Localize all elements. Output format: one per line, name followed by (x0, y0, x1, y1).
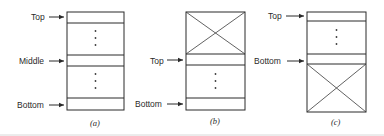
crossed-out-region-icon (307, 64, 366, 112)
crossed-out-region-icon (186, 12, 245, 54)
stack-outline (67, 12, 124, 110)
panel-a: Top Middle Bottom (a) (17, 12, 124, 128)
panel-b: Top Bottom (b) (135, 12, 245, 126)
bottom-pointer-label: Bottom (135, 99, 162, 109)
bottom-pointer-label: Bottom (254, 56, 281, 66)
ellipsis-dots-icon (95, 30, 97, 46)
top-pointer-label: Top (150, 56, 164, 66)
stack-diagram-figure: Top Middle Bottom (a) Top Bottom (b) (0, 0, 384, 136)
ellipsis-dots-icon (336, 29, 338, 45)
panel-c: Top Bottom (c) (254, 11, 366, 127)
caption-c: (c) (331, 117, 341, 127)
caption-a: (a) (90, 118, 100, 128)
top-pointer-label: Top (268, 11, 282, 21)
ellipsis-dots-icon (215, 73, 217, 89)
ellipsis-dots-icon (95, 73, 97, 89)
stack-outline (307, 12, 366, 112)
stack-outline (186, 12, 245, 110)
bottom-pointer-label: Bottom (17, 100, 44, 110)
top-pointer-label: Top (31, 12, 45, 22)
middle-pointer-label: Middle (19, 56, 44, 66)
caption-b: (b) (210, 116, 220, 126)
